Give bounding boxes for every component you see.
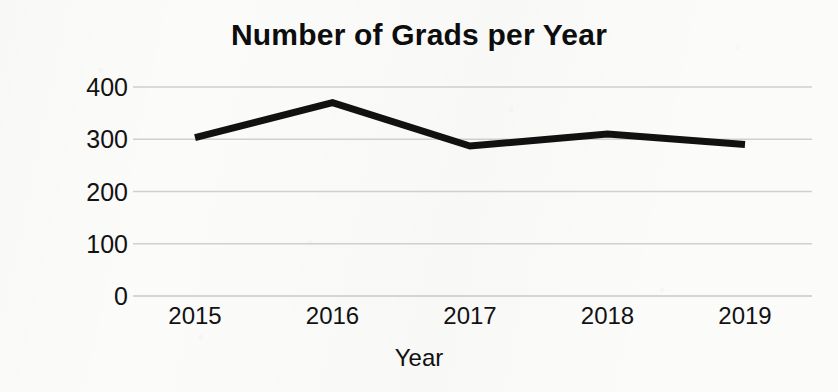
x-tick-label-2016: 2016 <box>273 302 393 330</box>
x-tick-label-2017: 2017 <box>410 302 530 330</box>
gridlines-group <box>133 87 812 296</box>
chart-figure: Number of Grads per Year Grads per Year … <box>0 0 838 392</box>
y-tick-label-100: 100 <box>28 229 128 258</box>
y-tick-label-0: 0 <box>28 282 128 311</box>
y-axis-tick-labels: 0100200300400 <box>18 0 128 392</box>
y-tick-label-200: 200 <box>28 177 128 206</box>
x-axis-title: Year <box>0 344 838 372</box>
x-tick-label-2018: 2018 <box>548 302 668 330</box>
y-tick-label-400: 400 <box>28 73 128 102</box>
x-tick-label-2019: 2019 <box>685 302 805 330</box>
x-tick-label-2015: 2015 <box>135 302 255 330</box>
plot-area: 0100200300400 20152016201720182019 <box>0 0 838 392</box>
y-tick-label-300: 300 <box>28 125 128 154</box>
